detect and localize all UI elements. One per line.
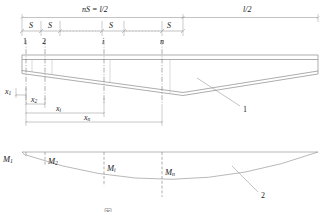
station-label-1: 1 xyxy=(23,38,27,46)
moment-start-tick xyxy=(22,152,26,156)
leader-label-2: 2 xyxy=(261,192,265,200)
dim-label-segment-4: S xyxy=(167,22,171,30)
figure-canvas xyxy=(0,0,327,212)
station-label-i: i xyxy=(102,38,104,46)
moment-ordinates xyxy=(26,152,162,197)
moment-label-1: M1 xyxy=(3,155,13,165)
x-label-2-sub: 2 xyxy=(35,98,38,104)
dim-label-segment-1: S xyxy=(29,22,33,30)
moment-label-i: Mi xyxy=(107,164,116,174)
x-label-n-sub: n xyxy=(88,116,91,122)
moment-label-2: M2 xyxy=(48,157,58,167)
beam-top-flange xyxy=(22,55,318,60)
station-label-n: n xyxy=(160,38,164,46)
moment-label-n-sub: n xyxy=(172,171,175,177)
station-centerlines xyxy=(26,40,162,104)
leader-line-2 xyxy=(232,166,258,192)
moment-label-n: Mn xyxy=(165,168,175,178)
x-label-1: x1 xyxy=(5,88,11,97)
dim-label-right-span: l/2 xyxy=(243,6,251,14)
dim-label-segment-3: S xyxy=(109,22,113,30)
station-label-2: 2 xyxy=(42,38,46,46)
x-label-2: x2 xyxy=(31,96,37,105)
figure-caption: 图 xyxy=(104,206,112,212)
dim-label-segment-2: S xyxy=(48,22,52,30)
x-label-i-sub: i xyxy=(60,107,62,113)
moment-label-i-sub: i xyxy=(114,167,116,173)
moment-label-2-sub: 2 xyxy=(55,160,58,166)
leader-label-1: 1 xyxy=(243,106,247,114)
x-label-1-sub: 1 xyxy=(9,90,12,96)
x-label-i: xi xyxy=(56,105,61,114)
moment-label-1-sub: 1 xyxy=(10,158,13,164)
figure-root: nS = l/2 l/2 S S S S 1 2 i n x1 x2 xi xn… xyxy=(0,0,327,212)
dim-label-left-span: nS = l/2 xyxy=(82,6,108,14)
x-label-n: xn xyxy=(84,114,90,123)
